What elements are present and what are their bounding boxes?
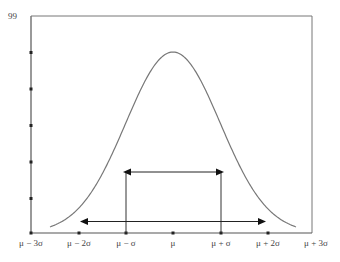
normal-distribution-chart: 99 μ − 3σ μ − 2σ μ − σ μ μ + σ μ + 2σ μ … xyxy=(0,0,340,262)
x-label-mu-plus-3sigma: μ + 3σ xyxy=(304,238,328,248)
two-sigma-double-arrow xyxy=(80,218,266,225)
x-label-mu-plus-sigma: μ + σ xyxy=(211,238,230,248)
x-label-mu-plus-2sigma: μ + 2σ xyxy=(256,238,280,248)
one-sigma-double-arrow xyxy=(123,169,224,176)
normal-curve xyxy=(50,52,296,227)
y-max-label: 99 xyxy=(8,11,18,21)
x-label-mu: μ xyxy=(171,238,176,248)
x-label-mu-minus-sigma: μ − σ xyxy=(116,238,135,248)
x-label-mu-minus-3sigma: μ − 3σ xyxy=(19,238,43,248)
x-label-mu-minus-2sigma: μ − 2σ xyxy=(67,238,91,248)
x-tick-labels: μ − 3σ μ − 2σ μ − σ μ μ + σ μ + 2σ μ + 3… xyxy=(19,238,328,248)
